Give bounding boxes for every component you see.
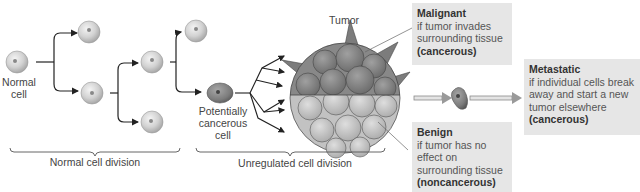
metastatic-description: if individual cells break away and start… [529, 76, 635, 114]
potentially-cancerous-cell [207, 83, 233, 103]
malignant-box: Malignant if tumor invades surrounding t… [412, 3, 512, 65]
malignant-description: if tumor invades surrounding tissue [417, 20, 507, 45]
benign-box: Benign if tumor has no effect on surroun… [412, 122, 512, 192]
tumor-label: Tumor [322, 14, 366, 26]
tumor [282, 20, 410, 158]
benign-description: if tumor has no effect on surrounding ti… [417, 139, 507, 177]
division-arrows [36, 32, 201, 122]
normal-cell-label: Normal cell [0, 76, 38, 100]
metastasis-arrows [414, 92, 522, 104]
metastatic-box: Metastatic if individual cells break awa… [524, 59, 640, 135]
metastatic-title: Metastatic [529, 63, 635, 76]
normal-division-bracket [10, 148, 180, 156]
benign-title: Benign [417, 126, 507, 139]
malignant-title: Malignant [417, 7, 507, 20]
unregulated-cell-division-label: Unregulated cell division [220, 157, 370, 169]
benign-classification: (noncancerous) [417, 176, 507, 189]
malignant-classification: (cancerous) [417, 45, 507, 58]
normal-cell-division-label: Normal cell division [30, 156, 160, 168]
potentially-cancerous-cell-label: Potentially cancerous cell [195, 105, 251, 141]
metastatic-cell [451, 87, 467, 109]
cancer-development-diagram: Normal cell Potentially cancerous cell T… [0, 0, 640, 192]
metastatic-classification: (cancerous) [529, 113, 635, 126]
